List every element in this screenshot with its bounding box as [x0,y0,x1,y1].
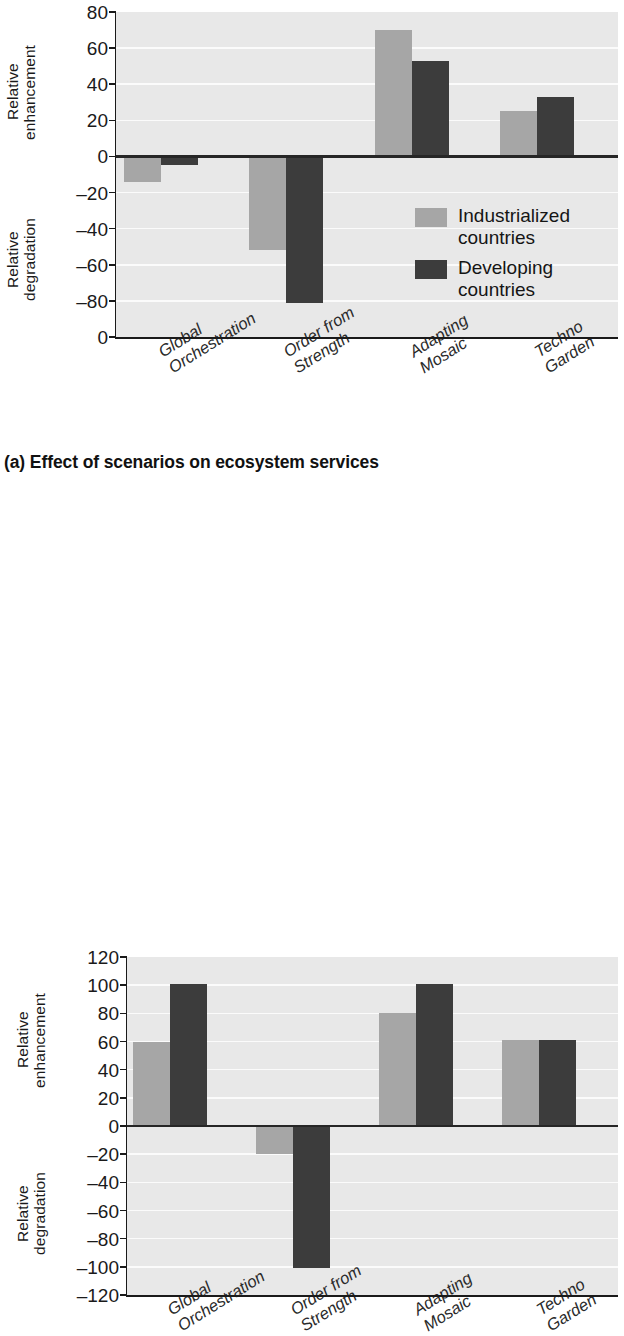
gridline [116,83,618,85]
bar [124,156,161,181]
gridline [116,192,618,194]
legend-item: Developing countries [415,257,553,302]
gridline [127,1210,618,1212]
y-tick-label: 40 [98,1060,119,1079]
bar [375,30,412,156]
bar [161,156,198,165]
y-tick-label: 60 [87,39,108,58]
x-axis-spine [126,1295,619,1297]
y-tick-label: 80 [87,3,108,22]
gridline [127,1153,618,1155]
chart-panel-a: Relative enhancement Relative degradatio… [0,0,624,440]
y-tick-label: 40 [87,75,108,94]
y-tick-label: –20 [76,183,108,202]
y-tick-label: –40 [76,219,108,238]
x-axis-tick-labels-a: Global OrchestrationOrder from StrengthA… [0,341,624,441]
bar [539,1040,576,1126]
y-tick-label: 120 [87,948,119,967]
y-axis-label-enhancement-a: Relative enhancement [4,22,39,162]
bar [379,1013,416,1126]
chart-panel-b: Relative enhancement Relative degradatio… [0,945,624,1336]
y-tick-label: –60 [87,1201,119,1220]
bar [170,984,207,1126]
zero-axis-line [127,1125,618,1128]
y-axis-label-degradation-b: Relative degradation [14,1139,49,1289]
y-tick-label: 20 [98,1088,119,1107]
y-axis-label-group-b: Relative enhancement Relative degradatio… [0,945,46,1336]
y-tick-label: –80 [76,291,108,310]
y-tick-label: 80 [98,1004,119,1023]
gridline [127,1182,618,1184]
legend-label: Industrialized countries [458,205,570,250]
y-tick-label: –80 [87,1229,119,1248]
y-tick-label: 20 [87,111,108,130]
bar [293,1126,330,1268]
legend-swatch [415,208,447,227]
y-tick-label: –20 [87,1145,119,1164]
figure-root: Relative enhancement Relative degradatio… [0,0,624,900]
zero-axis-line [116,155,618,158]
y-tick-label: 0 [97,147,108,166]
legend-label: Developing countries [458,257,553,302]
gridline [127,1238,618,1240]
bar [416,984,453,1126]
y-axis-label-degradation-a: Relative degradation [4,190,39,330]
y-axis-spine [115,12,117,337]
plot-area-b [127,957,618,1295]
bar [256,1126,293,1154]
y-tick-label: 100 [87,976,119,995]
bar [133,1042,170,1127]
bar [537,97,574,157]
bar [502,1040,539,1126]
x-axis-tick-labels-b: Global OrchestrationOrder from StrengthA… [0,1299,624,1336]
legend-swatch [415,260,447,279]
y-tick-label: –60 [76,255,108,274]
y-axis-tick-labels-b: 120100806040200–20–40–60–80–100–120 [57,957,119,1295]
bar [500,111,537,156]
bar [412,61,449,157]
bar [286,156,323,302]
y-tick-label: 0 [108,1117,119,1136]
gridline [116,47,618,49]
y-tick-label: –40 [87,1173,119,1192]
x-axis-spine [115,337,619,339]
bar [249,156,286,250]
gridline [127,1266,618,1268]
y-axis-tick-labels-a: 806040200–20–40–60–800 [46,12,108,337]
y-axis-label-enhancement-b: Relative enhancement [14,965,49,1115]
legend-item: Industrialized countries [415,205,570,250]
y-tick-label: 60 [98,1032,119,1051]
y-tick-label: –100 [77,1257,119,1276]
caption-panel-a: (a) Effect of scenarios on ecosystem ser… [4,452,379,473]
